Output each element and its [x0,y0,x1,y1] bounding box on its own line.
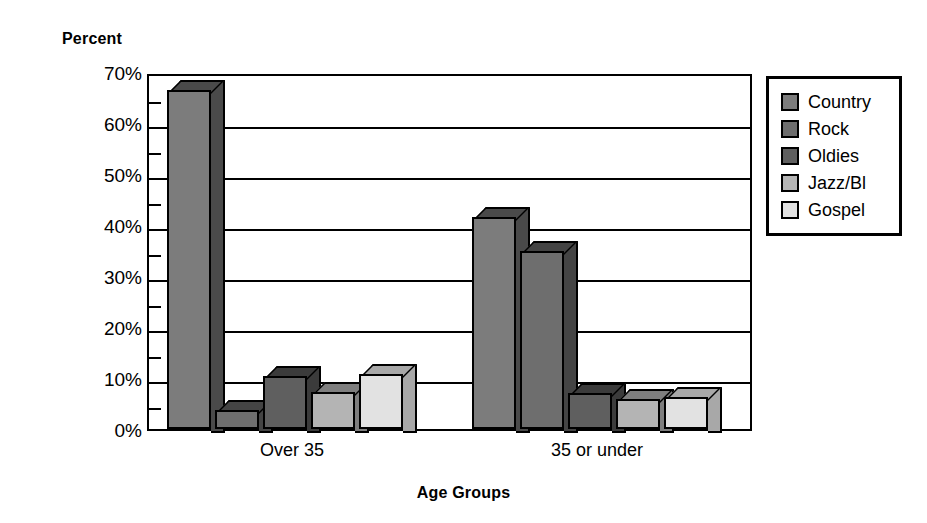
gridline [149,229,750,231]
legend-item-label: Jazz/Bl [808,174,866,192]
legend-item-label: Rock [808,120,849,138]
legend-swatch-icon [781,120,799,138]
legend-swatch-icon [781,174,799,192]
y-axis-title: Percent [62,30,122,48]
y-tick-label: 0% [60,420,142,442]
bar-country-35-or-under [472,217,516,429]
minor-tick [149,102,161,104]
legend-swatch-icon [781,93,799,111]
minor-tick [149,255,161,257]
minor-tick [149,306,161,308]
bar-jazz-bl-35-or-under [616,399,660,429]
gridline [149,127,750,129]
bar-side-face [211,80,225,433]
minor-tick [149,153,161,155]
bar-oldies-over-35 [263,376,307,429]
legend-item-label: Country [808,93,871,111]
gridline [149,178,750,180]
bar-jazz-bl-over-35 [311,392,355,429]
y-tick-label: 60% [60,114,142,136]
y-tick-label: 40% [60,216,142,238]
gridline [149,331,750,333]
minor-tick [149,408,161,410]
bar-gospel-35-or-under [664,397,708,429]
legend-item-rock[interactable]: Rock [781,115,899,142]
y-tick-label: 70% [60,63,142,85]
legend-item-gospel[interactable]: Gospel [781,196,899,223]
legend-item-label: Gospel [808,201,865,219]
legend-item-jazz-bl[interactable]: Jazz/Bl [781,169,899,196]
legend-swatch-icon [781,201,799,219]
legend-item-country[interactable]: Country [781,88,899,115]
bar-oldies-35-or-under [568,393,612,429]
gridline [149,280,750,282]
y-axis-tick-labels: 0%10%20%30%40%50%60%70% [52,74,142,431]
minor-tick [149,204,161,206]
bar-country-over-35 [167,90,211,429]
bar-rock-35-or-under [520,251,564,430]
bar-chart: Percent 0%10%20%30%40%50%60%70% Over 353… [0,0,927,523]
legend-swatch-icon [781,147,799,165]
bar-gospel-over-35 [359,374,403,429]
legend-item-oldies[interactable]: Oldies [781,142,899,169]
minor-tick [149,357,161,359]
y-tick-label: 10% [60,369,142,391]
y-tick-label: 20% [60,318,142,340]
plot-area [147,74,752,431]
bar-rock-over-35 [215,410,259,429]
category-label: 35 or under [470,440,724,461]
gridline [149,382,750,384]
x-axis-title: Age Groups [0,484,927,502]
legend-item-label: Oldies [808,147,859,165]
legend: CountryRockOldiesJazz/BlGospel [766,76,902,236]
category-label: Over 35 [165,440,419,461]
y-tick-label: 50% [60,165,142,187]
y-tick-label: 30% [60,267,142,289]
